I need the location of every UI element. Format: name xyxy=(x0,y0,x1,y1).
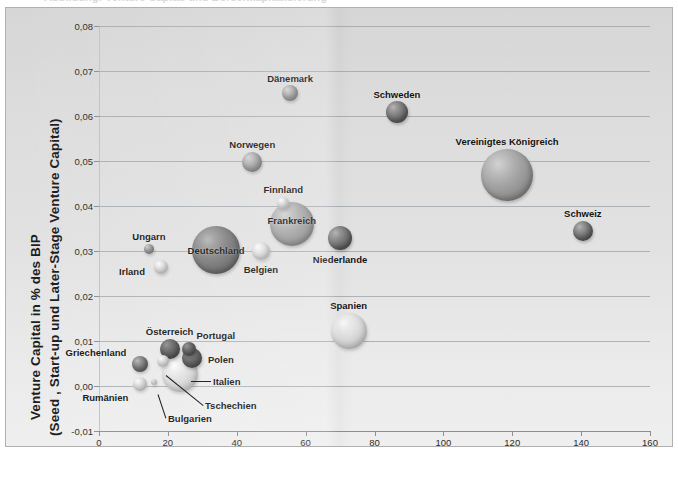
y-tick-mark xyxy=(94,71,99,72)
y-tick-label: 0,00 xyxy=(75,381,94,392)
bubble-label-tschechien: Tschechien xyxy=(205,400,257,411)
bubble-label-bulgarien: Bulgarien xyxy=(168,413,212,424)
bubble-niederlande[interactable] xyxy=(328,226,352,250)
x-tick-label: 140 xyxy=(573,437,589,447)
leader-line-bulgarien xyxy=(158,394,167,418)
bubble-spanien[interactable] xyxy=(331,313,367,349)
y-tick-mark xyxy=(94,161,99,162)
bubble-label-norwegen: Norwegen xyxy=(229,138,275,149)
bubble-label-finnland: Finnland xyxy=(263,184,303,195)
x-tick-mark xyxy=(237,431,238,436)
gridline-horizontal xyxy=(99,341,650,342)
y-tick-label: 0,02 xyxy=(75,291,94,302)
x-tick-mark xyxy=(99,431,100,436)
y-tick-mark xyxy=(94,251,99,252)
bubble-tschechien[interactable] xyxy=(157,355,169,367)
clipped-caption-text: Abbildung: Venture Capital und Börsenkap… xyxy=(44,0,327,3)
bubble-label-niederlande: Niederlande xyxy=(313,254,367,265)
bubble-label-rum-nien: Rumänien xyxy=(82,392,128,403)
bubble-label-frankreich: Frankreich xyxy=(268,215,317,226)
y-tick-label: 0,05 xyxy=(75,156,94,167)
y-tick-label: 0,03 xyxy=(75,246,94,257)
bubble-vereinigtes-k-nigreich[interactable] xyxy=(481,149,533,201)
y-tick-mark xyxy=(94,26,99,27)
y-tick-label: 0,04 xyxy=(75,201,94,212)
x-tick-label: 20 xyxy=(163,437,174,447)
y-tick-mark xyxy=(94,116,99,117)
y-axis-title-line1: Venture Capital in % des BIP xyxy=(28,234,43,420)
x-tick-mark xyxy=(650,431,651,436)
x-tick-label: 80 xyxy=(369,437,380,447)
y-tick-label: 0,08 xyxy=(75,21,94,32)
x-tick-mark xyxy=(306,431,307,436)
plot-area: 0,080,070,060,050,040,030,020,010,00-0,0… xyxy=(99,26,650,431)
bubble-d-nemark[interactable] xyxy=(282,85,298,101)
bubble-portugal[interactable] xyxy=(182,342,196,356)
x-tick-mark xyxy=(168,431,169,436)
y-tick-label: 0,06 xyxy=(75,111,94,122)
x-tick-mark xyxy=(581,431,582,436)
y-tick-mark xyxy=(94,386,99,387)
clipped-caption-sliver: Abbildung: Venture Capital und Börsenkap… xyxy=(0,0,678,7)
gridline-horizontal xyxy=(99,116,650,117)
bubble-label-schweden: Schweden xyxy=(373,88,420,99)
bubble-schweiz[interactable] xyxy=(573,221,593,241)
gridline-horizontal xyxy=(99,296,650,297)
bubble-label-belgien: Belgien xyxy=(244,263,278,274)
bubble-label-schweiz: Schweiz xyxy=(564,207,602,218)
bubble-label-irland: Irland xyxy=(119,266,145,277)
chart-image: Abbildung: Venture Capital und Börsenkap… xyxy=(0,0,678,479)
x-tick-label: 40 xyxy=(231,437,242,447)
bubble-label-ungarn: Ungarn xyxy=(132,230,165,241)
y-tick-mark xyxy=(94,206,99,207)
bubble-label-deutschland: Deutschland xyxy=(188,244,245,255)
bubble-griechenland[interactable] xyxy=(132,356,148,372)
x-tick-label: 120 xyxy=(504,437,520,447)
gridline-horizontal xyxy=(99,251,650,252)
x-tick-label: 0 xyxy=(96,437,101,447)
y-axis-title-line2: (Seed , Start-up und Later-Stage Venture… xyxy=(47,118,62,436)
bubble-label-spanien: Spanien xyxy=(330,299,367,310)
x-tick-label: 100 xyxy=(435,437,451,447)
bubble-label-italien: Italien xyxy=(213,376,240,387)
bubble-label-griechenland: Griechenland xyxy=(66,346,127,357)
gridline-horizontal xyxy=(99,71,650,72)
y-tick-mark xyxy=(94,296,99,297)
leader-line-italien xyxy=(191,381,211,382)
bubble-label-polen: Polen xyxy=(208,353,234,364)
bubble-label--sterreich: Österreich xyxy=(146,325,194,336)
y-tick-label: 0,07 xyxy=(75,66,94,77)
y-tick-mark xyxy=(94,341,99,342)
x-tick-mark xyxy=(512,431,513,436)
bubble-schweden[interactable] xyxy=(386,101,408,123)
y-tick-label: 0,01 xyxy=(75,336,94,347)
bubble-finnland[interactable] xyxy=(277,197,289,209)
bubble-ungarn[interactable] xyxy=(144,244,154,254)
gridline-horizontal xyxy=(99,161,650,162)
bubble-bulgarien[interactable] xyxy=(151,379,157,385)
x-tick-label: 60 xyxy=(300,437,311,447)
x-tick-mark xyxy=(443,431,444,436)
gridline-horizontal xyxy=(99,26,650,27)
bubble-label-portugal: Portugal xyxy=(197,330,236,341)
y-axis-line xyxy=(99,26,100,431)
bubble-label-d-nemark: Dänemark xyxy=(267,73,313,84)
bubble-label-vereinigtes-k-nigreich: Vereinigtes Königreich xyxy=(456,135,559,146)
bubble-belgien[interactable] xyxy=(252,242,270,260)
chart-frame: Venture Capital in % des BIP (Seed , Sta… xyxy=(5,7,673,447)
bubble-norwegen[interactable] xyxy=(242,152,262,172)
bubble-irland[interactable] xyxy=(154,260,168,274)
bubble-rum-nien[interactable] xyxy=(133,377,147,391)
y-tick-label: -0,01 xyxy=(71,426,93,437)
x-tick-mark xyxy=(375,431,376,436)
x-tick-label: 160 xyxy=(642,437,658,447)
